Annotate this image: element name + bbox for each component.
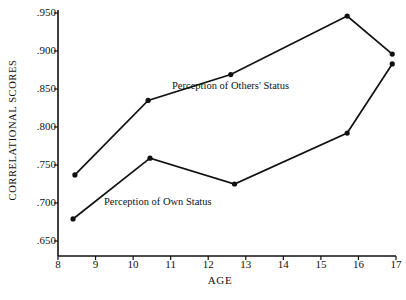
data-point-marker — [70, 216, 75, 221]
data-point-marker — [147, 156, 152, 161]
data-point-marker — [390, 51, 395, 56]
data-point-marker — [345, 13, 350, 18]
series-line-0 — [75, 16, 392, 175]
data-point-marker — [390, 61, 395, 66]
series-label-others: Perception of Others' Status — [172, 80, 289, 92]
chart-figure: CORRELATIONAL SCORES .950.900.850.800.75… — [0, 0, 406, 300]
axis-tick-marks — [54, 13, 396, 260]
data-point-marker — [72, 172, 77, 177]
data-point-marker — [232, 181, 237, 186]
plot-area — [0, 0, 406, 300]
data-point-marker — [228, 72, 233, 77]
series-label-own: Perception of Own Status — [104, 196, 212, 208]
data-point-marker — [345, 130, 350, 135]
data-series-group — [70, 13, 394, 221]
data-point-marker — [146, 98, 151, 103]
